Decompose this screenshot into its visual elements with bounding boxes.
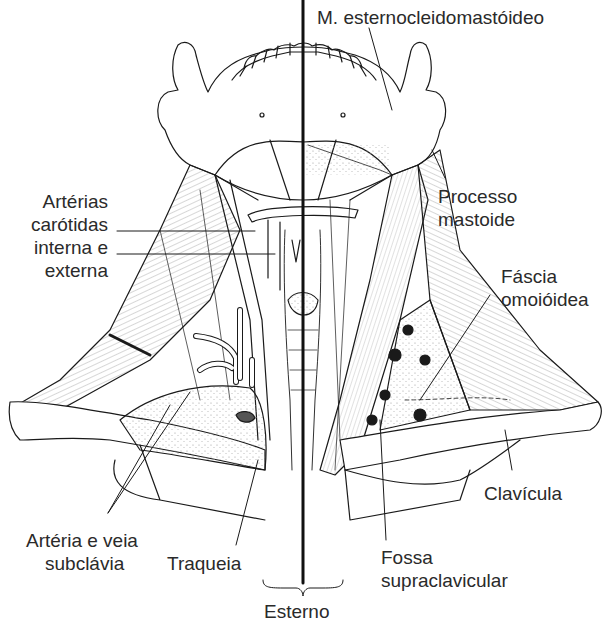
label-supraclavicular-fossa-line1: Fossa <box>381 546 433 569</box>
label-carotid-arteries-line4: externa <box>45 259 108 282</box>
label-carotid-arteries-line2: carótidas <box>31 213 108 236</box>
label-omohyoid-fascia-line2: omoióidea <box>501 288 589 311</box>
label-subclavian-line1: Artéria e veia <box>26 529 138 552</box>
left-vessels <box>196 310 252 385</box>
label-mastoid-process-line2: mastoide <box>438 208 515 231</box>
label-carotid-arteries-line3: interna e <box>34 236 108 259</box>
label-sternum: Esterno <box>264 600 329 623</box>
left-clavicle <box>9 386 266 520</box>
label-sternocleidomastoid: M. esternocleidomastóideo <box>317 6 544 29</box>
label-omohyoid-fascia-line1: Fáscia <box>501 265 557 288</box>
label-mastoid-process-line1: Processo <box>438 185 517 208</box>
label-supraclavicular-fossa-line2: supraclavicular <box>381 569 508 592</box>
label-trachea: Traqueia <box>167 552 241 575</box>
label-subclavian-line2: subclávia <box>45 552 124 575</box>
label-clavicle: Clavícula <box>484 482 562 505</box>
label-carotid-arteries-line1: Artérias <box>43 190 108 213</box>
